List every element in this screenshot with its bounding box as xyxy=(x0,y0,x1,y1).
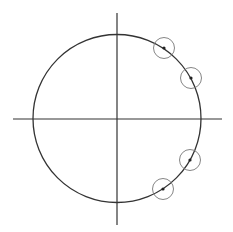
point-2 xyxy=(189,76,192,79)
point-1 xyxy=(162,46,165,49)
point-4 xyxy=(161,187,164,190)
point-3 xyxy=(188,158,191,161)
diagram-canvas xyxy=(0,0,233,232)
